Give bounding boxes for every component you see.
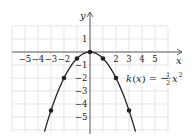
chart: x y −5−4−3−223451−1−2−3−4−5 k(x) = − 1 2…	[0, 0, 193, 138]
y-tick-label: −4	[75, 99, 88, 109]
x-tick-label: 5	[152, 54, 157, 64]
data-point	[114, 76, 119, 81]
fraction-numerator: 1	[166, 71, 170, 79]
data-point	[75, 56, 80, 61]
y-tick-label: 1	[82, 34, 87, 44]
x-tick-label: 4	[139, 54, 144, 64]
data-point	[62, 76, 67, 81]
function-variable: x	[172, 73, 178, 84]
data-point	[127, 108, 132, 113]
y-axis-label: y	[79, 10, 86, 21]
x-tick-label: −5	[19, 54, 32, 64]
x-axis-label: x	[176, 55, 182, 66]
y-tick-label: −1	[75, 60, 88, 70]
function-rest: ) = −	[142, 73, 169, 84]
function-label-lhs: k(x) = −	[126, 73, 169, 84]
function-exponent: 2	[179, 71, 183, 79]
data-point	[88, 50, 93, 55]
data-point	[49, 108, 54, 113]
x-tick-label: −3	[45, 54, 58, 64]
y-tick-label: −3	[75, 86, 88, 96]
data-point	[101, 56, 106, 61]
x-tick-label: −4	[32, 54, 45, 64]
x-tick-label: 3	[126, 54, 131, 64]
x-tick-label: −2	[58, 54, 71, 64]
function-label: k(x) = − 1 2 x 2	[125, 70, 185, 88]
fraction-denominator: 2	[166, 79, 170, 87]
x-tick-label: 2	[113, 54, 118, 64]
y-tick-label: −5	[75, 112, 88, 122]
y-tick-label: −2	[75, 73, 88, 83]
